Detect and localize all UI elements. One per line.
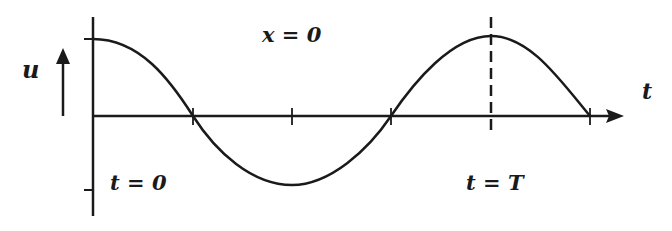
wave-diagram: u x = 0 t t = 0 t = T	[0, 0, 672, 231]
wave-curve	[93, 36, 590, 185]
period-time-label: t = T	[466, 172, 524, 193]
u-axis-label: u	[22, 58, 39, 82]
diagram-canvas	[0, 0, 672, 231]
start-time-label: t = 0	[110, 172, 167, 193]
diagram-title: x = 0	[262, 24, 321, 45]
u-direction-arrow-icon	[56, 48, 70, 64]
t-axis-label: t	[642, 80, 652, 102]
